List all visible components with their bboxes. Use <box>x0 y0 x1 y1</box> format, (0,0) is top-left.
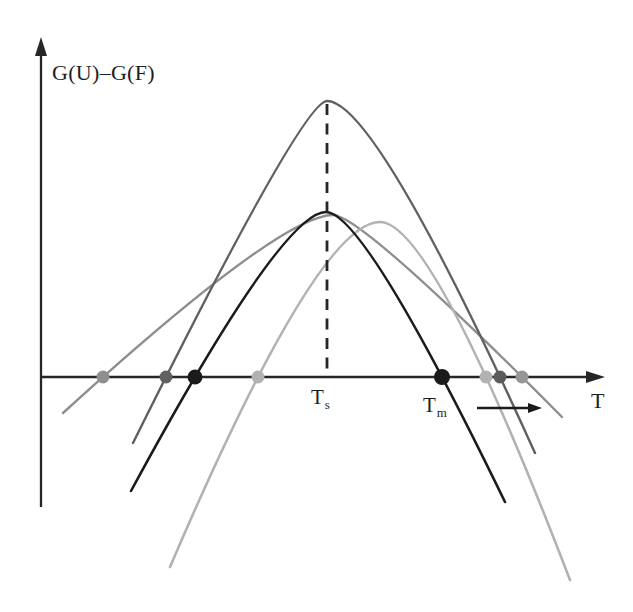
crossing-dot-tall-gray-166 <box>160 371 173 384</box>
crossing-dot-black-442 <box>434 369 450 385</box>
curve-tall-gray <box>133 101 535 453</box>
stability-curves <box>63 101 570 580</box>
ts-tick-label: Ts <box>311 385 330 410</box>
crossing-dot-wide-gray-103 <box>97 371 110 384</box>
crossing-dot-tall-gray-500 <box>494 371 507 384</box>
crossing-dot-light-gray-258 <box>252 371 265 384</box>
y-axis-label: G(U)–G(F) <box>52 60 155 86</box>
y-axis-arrowhead-icon <box>35 37 47 56</box>
crossing-dot-black-195 <box>188 370 203 385</box>
ts-label-subscript: s <box>325 397 330 412</box>
crossing-dot-light-gray-486 <box>480 371 493 384</box>
shift-arrow-head-icon <box>528 403 542 413</box>
x-axis-label: T <box>591 388 604 414</box>
curve-black <box>131 212 505 502</box>
x-axis-arrowhead-icon <box>586 371 605 383</box>
tm-label-subscript: m <box>437 405 447 420</box>
plot-canvas <box>0 0 633 612</box>
crossing-dot-wide-gray-522 <box>516 371 529 384</box>
protein-stability-curve-figure: G(U)–G(F) Ts Tm T <box>0 0 633 612</box>
shift-right-arrow-icon <box>477 403 542 413</box>
ts-label-base: T <box>311 385 324 409</box>
tm-label-base: T <box>423 393 436 417</box>
tm-tick-label: Tm <box>423 393 447 418</box>
